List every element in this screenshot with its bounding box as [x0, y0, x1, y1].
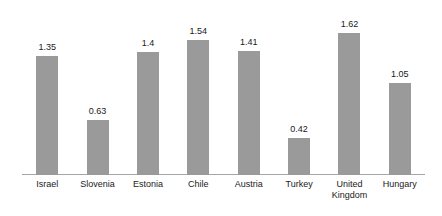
- bar-group-turkey[interactable]: 0.42: [274, 8, 324, 175]
- bar-estonia[interactable]: [137, 52, 159, 175]
- bar-value-label: 0.42: [290, 124, 308, 135]
- x-tick-label-chile: Chile: [173, 177, 223, 213]
- x-tick-label-turkey: Turkey: [274, 177, 324, 213]
- bar-chart: 1.35 0.63 1.4 1.54 1.41 0.42 1.62: [0, 0, 442, 216]
- x-tick-label-estonia: Estonia: [123, 177, 173, 213]
- bar-chile[interactable]: [187, 40, 209, 175]
- bar-group-hungary[interactable]: 1.05: [375, 8, 425, 175]
- bar-series: 1.35 0.63 1.4 1.54 1.41 0.42 1.62: [22, 8, 425, 175]
- bar-value-label: 0.63: [89, 106, 107, 117]
- bar-group-chile[interactable]: 1.54: [173, 8, 223, 175]
- bar-group-united-kingdom[interactable]: 1.62: [324, 8, 374, 175]
- bar-value-label: 1.62: [341, 19, 359, 30]
- bar-slovenia[interactable]: [87, 120, 109, 175]
- bar-value-label: 1.41: [240, 37, 258, 48]
- x-tick-label-united-kingdom: United Kingdom: [324, 177, 374, 213]
- x-tick-label-israel: Israel: [22, 177, 72, 213]
- bar-group-israel[interactable]: 1.35: [22, 8, 72, 175]
- bar-value-label: 1.05: [391, 69, 409, 80]
- x-tick-label-slovenia: Slovenia: [72, 177, 122, 213]
- bar-united-kingdom[interactable]: [338, 33, 360, 175]
- bar-turkey[interactable]: [288, 138, 310, 175]
- x-axis-tick-labels: Israel Slovenia Estonia Chile Austria Tu…: [22, 177, 425, 213]
- bar-hungary[interactable]: [389, 83, 411, 175]
- bar-israel[interactable]: [36, 56, 58, 175]
- x-tick-label-austria: Austria: [224, 177, 274, 213]
- bar-austria[interactable]: [238, 51, 260, 175]
- bar-group-austria[interactable]: 1.41: [224, 8, 274, 175]
- bar-value-label: 1.4: [142, 38, 155, 49]
- bar-group-estonia[interactable]: 1.4: [123, 8, 173, 175]
- x-tick-label-hungary: Hungary: [375, 177, 425, 213]
- bar-value-label: 1.35: [38, 42, 56, 53]
- bar-value-label: 1.54: [190, 26, 208, 37]
- bar-group-slovenia[interactable]: 0.63: [72, 8, 122, 175]
